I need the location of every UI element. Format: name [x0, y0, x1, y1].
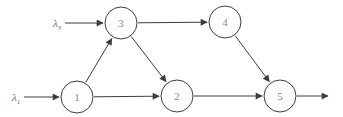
edge-1-2-arrow	[94, 96, 159, 97]
diagram-canvas: λ3λ112345	[0, 0, 343, 117]
label-lambda1-subscript: 1	[17, 98, 21, 106]
node-4: 4	[209, 6, 241, 38]
node-1: 1	[61, 81, 93, 113]
label-lambda3-subscript: 3	[57, 24, 62, 32]
node-2-label: 2	[174, 90, 180, 102]
node-2: 2	[161, 80, 193, 112]
node-3-label: 3	[118, 17, 124, 29]
precedence-network-figure: λ3λ112345	[0, 0, 343, 117]
node-5-label: 5	[277, 90, 283, 102]
node-4-label: 4	[222, 16, 228, 28]
node-3: 3	[105, 7, 137, 39]
edge-4-5-arrow	[235, 36, 269, 82]
label-lambda1: λ1	[11, 91, 20, 106]
edge-1-3-arrow	[86, 39, 112, 83]
edge-3-4-arrow	[138, 22, 207, 23]
node-1-label: 1	[74, 91, 80, 103]
label-lambda3: λ3	[52, 17, 62, 32]
node-5: 5	[264, 80, 296, 112]
edge-3-2-arrow	[131, 37, 166, 82]
